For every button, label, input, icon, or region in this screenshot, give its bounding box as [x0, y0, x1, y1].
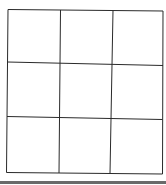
grid-horizontal-line-2: [7, 117, 163, 120]
footer-bar: [0, 181, 166, 184]
grid-diagram: [0, 0, 166, 185]
grid-outer-border: [7, 10, 164, 175]
grid-vertical-line-2: [110, 11, 113, 174]
grid-lines: [7, 10, 164, 175]
grid-horizontal-line-1: [8, 62, 164, 66]
grid-vertical-line-1: [59, 10, 61, 173]
